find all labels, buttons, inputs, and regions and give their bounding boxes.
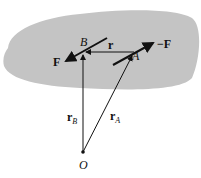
label-vector-rB: rB [67, 111, 77, 126]
label-force-F: F [53, 56, 60, 68]
label-force-negF: −F [157, 38, 171, 50]
diagram-graphics [0, 0, 201, 178]
label-origin-O: O [79, 159, 88, 171]
moment-couple-diagram: B r −F A F rB rA O [0, 0, 201, 178]
label-point-A: A [132, 50, 139, 62]
label-vector-r: r [108, 39, 113, 51]
label-vector-rA: rA [110, 110, 120, 125]
label-point-B: B [80, 36, 87, 48]
origin-point [81, 150, 85, 154]
